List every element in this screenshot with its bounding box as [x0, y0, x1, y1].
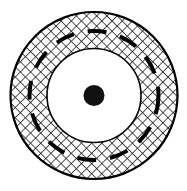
center-dot	[84, 85, 105, 106]
ring-diagram-svg: Concentric annular cross-hatched ring di…	[0, 0, 187, 191]
figure-container: Concentric annular cross-hatched ring di…	[0, 0, 187, 191]
